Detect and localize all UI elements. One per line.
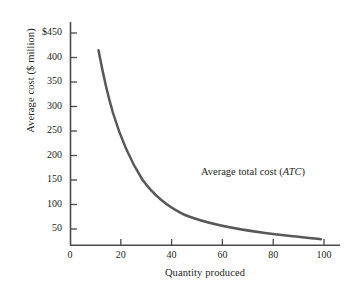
x-tick-label-20: 20: [107, 249, 135, 260]
atc-label-tail: ): [302, 166, 306, 177]
y-tick-label-150: 150: [18, 173, 62, 184]
x-tick-label-100: 100: [310, 249, 338, 260]
y-axis-title: Average cost ($ million): [25, 0, 36, 171]
atc-curve: [99, 50, 322, 239]
x-tick-label-80: 80: [259, 249, 287, 260]
x-tick-label-0: 0: [56, 249, 84, 260]
x-tick-label-60: 60: [208, 249, 236, 260]
x-axis-title: Quantity produced: [70, 267, 340, 278]
x-axis-ticks: [121, 239, 324, 245]
atc-curve-label: Average total cost (ATC): [201, 166, 305, 177]
chart-figure: $450 400 350 300 250 200 150 100 50 0 20…: [0, 0, 346, 297]
y-tick-label-50: 50: [18, 222, 62, 233]
x-tick-label-40: 40: [158, 249, 186, 260]
y-axis-ticks: [71, 33, 78, 229]
atc-label-text: Average total cost (: [201, 166, 283, 177]
y-tick-label-100: 100: [18, 198, 62, 209]
atc-label-abbrev: ATC: [283, 166, 302, 177]
